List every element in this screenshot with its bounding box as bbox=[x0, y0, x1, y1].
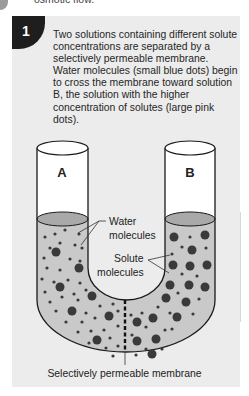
tube-b-label: B bbox=[185, 165, 194, 180]
water-label-line2: molecules bbox=[109, 230, 156, 241]
water-label-line1: Water bbox=[109, 216, 137, 227]
tube-a-label: A bbox=[57, 165, 67, 180]
u-tube-diagram: A B Water molecules Solute molecules bbox=[0, 0, 249, 396]
solute-label-line1: Solute bbox=[114, 253, 144, 264]
solute-label-line2: molecules bbox=[97, 267, 144, 278]
tube-a-rim bbox=[37, 141, 88, 155]
tube-b-rim bbox=[165, 141, 215, 155]
surface-b bbox=[165, 212, 215, 226]
surface-a bbox=[37, 212, 88, 226]
membrane-caption: Selectively permeable membrane bbox=[0, 368, 249, 379]
